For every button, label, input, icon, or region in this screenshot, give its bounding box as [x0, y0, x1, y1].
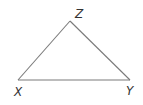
vertex-label-x: X	[13, 85, 23, 99]
edge-zx	[18, 21, 70, 80]
vertex-label-y: Y	[126, 84, 135, 98]
triangle-diagram: X Y Z	[0, 0, 143, 105]
edge-yz	[70, 21, 130, 80]
vertex-label-z: Z	[74, 7, 84, 21]
